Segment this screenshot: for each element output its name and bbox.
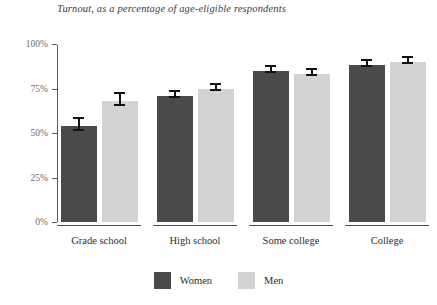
bar-men[interactable] xyxy=(390,62,426,222)
error-bar-cap-bottom xyxy=(169,96,180,98)
error-bar-cap-bottom xyxy=(265,71,276,73)
error-bar-cap-top xyxy=(265,65,276,67)
x-axis-segment xyxy=(249,225,333,226)
bar-women[interactable] xyxy=(61,126,97,222)
error-bar-cap-bottom xyxy=(73,129,84,131)
y-axis-label: 25% xyxy=(31,173,48,183)
x-axis-segment xyxy=(57,225,141,226)
error-bar xyxy=(210,83,221,91)
bar-group: High school xyxy=(153,44,237,222)
legend-item-men[interactable]: Men xyxy=(238,272,283,289)
x-axis-category-label: College xyxy=(345,235,429,246)
error-bar-cap-top xyxy=(169,90,180,92)
error-bar xyxy=(169,90,180,98)
error-bar xyxy=(402,56,413,64)
error-bar-cap-top xyxy=(306,68,317,70)
error-bar-cap-bottom xyxy=(210,89,221,91)
bar-women[interactable] xyxy=(349,65,385,222)
error-bar-cap-bottom xyxy=(361,65,372,67)
legend-item-women[interactable]: Women xyxy=(154,272,212,289)
y-axis-tick xyxy=(52,222,57,223)
bar-group: College xyxy=(345,44,429,222)
error-bar-cap-top xyxy=(73,117,84,119)
error-bar xyxy=(114,92,125,106)
legend-label-men: Men xyxy=(264,275,283,286)
chart-title: Turnout, as a percentage of age-eligible… xyxy=(57,3,286,14)
error-bar xyxy=(265,65,276,73)
x-axis-segment xyxy=(153,225,237,226)
x-axis-category-label: Some college xyxy=(249,235,333,246)
y-axis-label: 0% xyxy=(35,217,48,227)
women-swatch-icon xyxy=(154,272,171,289)
error-bar-cap-top xyxy=(402,56,413,58)
error-bar-cap-top xyxy=(114,92,125,94)
chart-legend: Women Men xyxy=(0,272,437,289)
bar-group: Grade school xyxy=(57,44,141,222)
error-bar-cap-top xyxy=(361,59,372,61)
bar-men[interactable] xyxy=(198,89,234,223)
bar-women[interactable] xyxy=(157,96,193,222)
error-bar xyxy=(306,68,317,76)
y-axis-label: 50% xyxy=(31,128,48,138)
bar-group: Some college xyxy=(249,44,333,222)
y-axis-label: 100% xyxy=(26,39,48,49)
x-axis-category-label: Grade school xyxy=(57,235,141,246)
x-axis-category-label: High school xyxy=(153,235,237,246)
bar-women[interactable] xyxy=(253,71,289,222)
error-bar-cap-bottom xyxy=(402,62,413,64)
legend-label-women: Women xyxy=(180,275,212,286)
error-bar-cap-bottom xyxy=(306,74,317,76)
error-bar xyxy=(361,59,372,67)
error-bar-cap-top xyxy=(210,83,221,85)
plot-area: Grade schoolHigh schoolSome collegeColle… xyxy=(57,44,429,222)
bar-men[interactable] xyxy=(102,101,138,222)
error-bar-cap-bottom xyxy=(114,104,125,106)
x-axis-segment xyxy=(345,225,429,226)
chart-container: Turnout, as a percentage of age-eligible… xyxy=(0,0,437,305)
men-swatch-icon xyxy=(238,272,255,289)
bar-men[interactable] xyxy=(294,74,330,222)
error-bar xyxy=(73,117,84,131)
y-axis-label: 75% xyxy=(31,84,48,94)
